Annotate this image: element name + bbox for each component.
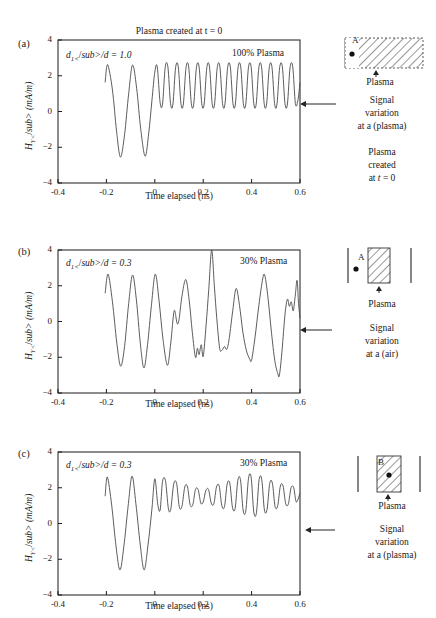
panel-b-plasma-label: Plasma	[330, 298, 434, 311]
note-line: at t = 0	[330, 172, 434, 185]
note-line: at a (plasma)	[330, 120, 434, 133]
x-tick-label: 0.2	[183, 599, 223, 609]
panel-b-side-note: Signalvariationat a (air)	[330, 322, 434, 361]
y-tick-label: −2	[32, 553, 52, 563]
x-tick-label: -0.2	[86, 187, 126, 197]
panel-a-extra-note: Plasmacreatedat t = 0	[330, 146, 434, 185]
x-tick-label: -0.2	[86, 599, 126, 609]
waveform-line	[105, 250, 300, 377]
y-tick-label: 4	[32, 34, 52, 44]
note-line: created	[330, 159, 434, 172]
y-tick-label: 0	[32, 316, 52, 326]
y-tick-label: 2	[32, 280, 52, 290]
y-tick-label: 0	[32, 518, 52, 528]
x-tick-label: 0.2	[183, 187, 223, 197]
note-line: Plasma	[330, 146, 434, 159]
panel-b-plot	[0, 218, 436, 418]
x-tick-label: 0.6	[280, 187, 320, 197]
x-tick-label: 0	[135, 599, 175, 609]
y-tick-label: −4	[32, 177, 52, 187]
y-tick-label: 2	[32, 70, 52, 80]
y-tick-label: −2	[32, 141, 52, 151]
panel-c-diagram-point-label: B	[378, 457, 384, 467]
y-tick-label: −4	[32, 387, 52, 397]
note-line: variation	[340, 536, 436, 549]
y-tick-label: −4	[32, 589, 52, 599]
note-line: variation	[330, 107, 434, 120]
note-line: Signal	[330, 94, 434, 107]
figure-root: (a) Plasma created at t = 0 HY</sub> (mA…	[0, 0, 436, 618]
note-line: Signal	[340, 523, 436, 536]
panel-a-diagram-point-label: A	[352, 35, 359, 45]
x-tick-label: -0.4	[38, 599, 78, 609]
panel-c-plasma-label: Plasma	[340, 500, 436, 513]
y-tick-label: 4	[32, 244, 52, 254]
note-line: at a (air)	[330, 348, 434, 361]
y-tick-label: 2	[32, 482, 52, 492]
waveform-line	[105, 474, 300, 570]
x-tick-label: -0.2	[86, 397, 126, 407]
waveform-line	[105, 62, 300, 157]
panel-a-plasma-label: Plasma	[330, 76, 430, 89]
panel-c-plot	[0, 420, 436, 618]
panel-c: (c) HY</sub> (mA/m) d1</sub>/d = 0.3 30%…	[0, 420, 436, 618]
y-tick-label: 0	[32, 106, 52, 116]
x-tick-label: 0	[135, 397, 175, 407]
note-line: at a (plasma)	[340, 549, 436, 562]
x-tick-label: 0.6	[280, 599, 320, 609]
panel-a-side-note: Signalvariationat a (plasma)	[330, 94, 434, 133]
panel-b: (b) HY</sub> (mA/m) d1</sub>/d = 0.3 30%…	[0, 218, 436, 418]
x-tick-label: 0.4	[232, 397, 272, 407]
x-tick-label: 0.4	[232, 599, 272, 609]
x-tick-label: 0.2	[183, 397, 223, 407]
note-line: variation	[330, 335, 434, 348]
x-tick-label: -0.4	[38, 187, 78, 197]
x-tick-label: 0	[135, 187, 175, 197]
panel-c-side-note: Signalvariationat a (plasma)	[340, 523, 436, 562]
x-tick-label: 0.4	[232, 187, 272, 197]
y-tick-label: 4	[32, 446, 52, 456]
y-tick-label: −2	[32, 351, 52, 361]
x-tick-label: -0.4	[38, 397, 78, 407]
note-line: Signal	[330, 322, 434, 335]
panel-b-diagram-point-label: A	[358, 252, 365, 262]
x-tick-label: 0.6	[280, 397, 320, 407]
